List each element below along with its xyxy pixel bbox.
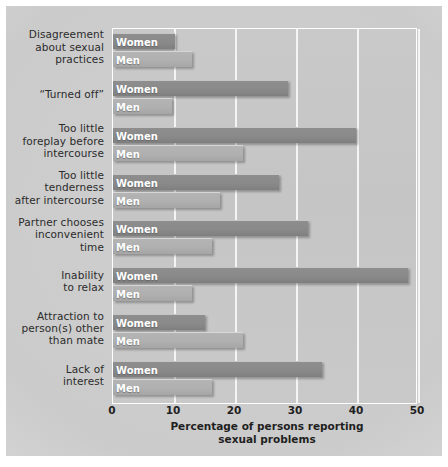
y-axis-category-label-line: intercourse (4, 147, 104, 159)
y-axis-category-label: Partner choosesinconvenienttime (4, 216, 104, 253)
bar-label-men: Men (116, 53, 140, 68)
bar-women[interactable]: Women (113, 361, 322, 377)
y-axis-category-label-line: Disagreement (4, 28, 104, 40)
y-axis-category-label-line: than mate (4, 334, 104, 346)
y-axis-category-label-line: foreplay before (4, 135, 104, 147)
x-tick-30: 30 (288, 404, 303, 416)
x-tick-10: 10 (166, 404, 181, 416)
y-axis-category-label-line: to relax (4, 281, 104, 293)
bar-women[interactable]: Women (113, 33, 175, 49)
bar-men[interactable]: Men (113, 285, 192, 301)
bar-label-men: Men (116, 381, 140, 396)
plot-area: WomenMenWomenMenWomenMenWomenMenWomenMen… (112, 28, 417, 404)
y-axis-category-label-line: Too little (4, 122, 104, 134)
bar-label-men: Men (116, 334, 140, 349)
y-axis-category-labels: Disagreementabout sexualpractices“Turned… (4, 26, 108, 404)
bar-men[interactable]: Men (113, 145, 243, 161)
y-axis-category-label-line: tenderness (4, 181, 104, 193)
bar-label-men: Men (116, 147, 140, 162)
y-axis-category-label-line: Inability (4, 269, 104, 281)
y-axis-category-label: Too littletendernessafter intercourse (4, 169, 104, 206)
y-axis-category-label-line: time (4, 241, 104, 253)
gridline-50 (418, 29, 420, 403)
x-tick-20: 20 (227, 404, 242, 416)
bar-group: WomenMen (113, 314, 416, 354)
y-axis-category-label: Lack ofinterest (4, 363, 104, 388)
bar-label-women: Women (116, 269, 158, 284)
bar-label-women: Women (116, 82, 158, 97)
x-tick-40: 40 (349, 404, 364, 416)
y-axis-category-label-line: interest (4, 375, 104, 387)
y-axis-category-label-line: Attraction to (4, 310, 104, 322)
bar-label-men: Men (116, 240, 140, 255)
y-axis-category-label-line: Partner chooses (4, 216, 104, 228)
y-axis-category-label-line: Too little (4, 169, 104, 181)
y-axis-category-label-line: Lack of (4, 363, 104, 375)
x-axis-title-line-2: sexual problems (112, 433, 422, 446)
y-axis-category-label-line: “Turned off” (4, 88, 104, 100)
bar-men[interactable]: Men (113, 192, 220, 208)
bar-men[interactable]: Men (113, 379, 212, 395)
x-axis-title: Percentage of persons reporting sexual p… (112, 420, 422, 445)
bar-group: WomenMen (113, 361, 416, 401)
bar-men[interactable]: Men (113, 332, 243, 348)
bar-label-men: Men (116, 287, 140, 302)
bar-group: WomenMen (113, 127, 416, 167)
y-axis-category-label: Attraction toperson(s) otherthan mate (4, 310, 104, 347)
bar-label-women: Women (116, 176, 158, 191)
chart-figure: Disagreementabout sexualpractices“Turned… (0, 0, 448, 467)
y-axis-category-label-line: after intercourse (4, 194, 104, 206)
y-axis-category-label-line: inconvenient (4, 228, 104, 240)
bar-label-women: Women (116, 35, 158, 50)
bar-men[interactable]: Men (113, 98, 172, 114)
bar-group: WomenMen (113, 174, 416, 214)
bar-women[interactable]: Women (113, 80, 288, 96)
bar-women[interactable]: Women (113, 127, 356, 143)
bar-women[interactable]: Women (113, 174, 279, 190)
bar-group: WomenMen (113, 267, 416, 307)
y-axis-category-label-line: person(s) other (4, 322, 104, 334)
bar-women[interactable]: Women (113, 220, 308, 236)
x-axis-title-line-1: Percentage of persons reporting (112, 420, 422, 433)
bar-label-men: Men (116, 100, 140, 115)
bar-women[interactable]: Women (113, 314, 205, 330)
y-axis-category-label: Too littleforeplay beforeintercourse (4, 122, 104, 159)
bar-men[interactable]: Men (113, 51, 192, 67)
bar-group: WomenMen (113, 80, 416, 120)
bar-men[interactable]: Men (113, 238, 212, 254)
bar-label-women: Women (116, 363, 158, 378)
x-tick-50: 50 (410, 404, 425, 416)
y-axis-category-label: Disagreementabout sexualpractices (4, 28, 104, 65)
bar-label-women: Women (116, 129, 158, 144)
bar-label-women: Women (116, 316, 158, 331)
x-tick-0: 0 (108, 404, 115, 416)
bar-group: WomenMen (113, 33, 416, 73)
x-axis-tick-labels: 01020304050 (112, 404, 417, 420)
bar-label-men: Men (116, 194, 140, 209)
bar-women[interactable]: Women (113, 267, 408, 283)
y-axis-category-label: “Turned off” (4, 88, 104, 100)
y-axis-category-label-line: about sexual (4, 41, 104, 53)
y-axis-category-label: Inabilityto relax (4, 269, 104, 294)
y-axis-category-label-line: practices (4, 53, 104, 65)
bar-group: WomenMen (113, 220, 416, 260)
bar-label-women: Women (116, 222, 158, 237)
